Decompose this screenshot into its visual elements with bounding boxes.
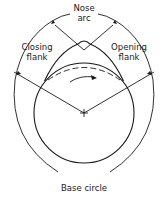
base-circle-label: Base circle	[61, 183, 107, 193]
arrowhead-icon	[51, 20, 55, 24]
opening-label-2: flank	[119, 52, 140, 62]
arrowhead-icon	[113, 20, 117, 24]
nose-right-line	[84, 25, 113, 50]
nose-left-line	[55, 25, 84, 50]
outer-arc-top-right	[98, 14, 116, 21]
opening-label-1: Opening	[111, 42, 147, 52]
arrowhead-icon	[91, 75, 97, 80]
closing-radial-line	[14, 72, 84, 113]
nose-label-2: arc	[77, 13, 91, 23]
nose-label-1: Nose	[73, 3, 94, 13]
closing-label-2: flank	[27, 52, 48, 62]
outer-arc-top-left	[52, 14, 70, 21]
closing-label-1: Closing	[21, 42, 52, 52]
nose-arc	[78, 41, 90, 44]
cam-diagram: Nose arc Closing flank Opening flank Bas…	[0, 0, 168, 204]
rotation-arrow	[70, 77, 94, 82]
